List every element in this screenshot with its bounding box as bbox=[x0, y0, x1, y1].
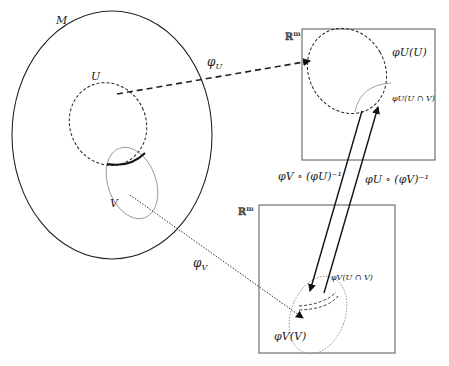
image-phi-u-u-label: φU(U) bbox=[392, 46, 427, 59]
chart-phi-v-label: φV bbox=[193, 256, 208, 272]
chart-phi-u-label: φU bbox=[207, 55, 222, 71]
intersection-u-v-curve bbox=[107, 153, 145, 165]
open-set-v bbox=[97, 140, 167, 226]
image-phi-v-intersection-curve-2 bbox=[299, 296, 338, 310]
rm-space-bottom-label: ℝm bbox=[238, 204, 254, 217]
image-phi-v-v-label: φV(V) bbox=[274, 330, 306, 343]
manifold-diagram: M U V φU φV ℝm φU(U) φU(U ∩ V) ℝm φV(V) … bbox=[0, 0, 449, 366]
open-set-u-label: U bbox=[91, 70, 101, 83]
image-phi-u-intersection-label: φU(U ∩ V) bbox=[392, 94, 435, 103]
open-set-v-label: V bbox=[110, 197, 119, 210]
manifold-m-label: M bbox=[55, 14, 68, 27]
transition-vu-arrow bbox=[310, 111, 362, 291]
image-phi-v-intersection-curve-1 bbox=[299, 292, 336, 306]
image-phi-v-intersection-label: φV(U ∩ V) bbox=[331, 273, 373, 282]
image-phi-v-v bbox=[279, 268, 357, 362]
chart-phi-v-arrow bbox=[130, 195, 303, 318]
manifold-m-boundary bbox=[12, 11, 212, 259]
transition-vu-label: φV ∘ (φU)⁻¹ bbox=[278, 170, 342, 183]
image-phi-u-u bbox=[292, 14, 402, 128]
transition-uv-label: φU ∘ (φV)⁻¹ bbox=[365, 173, 429, 186]
transition-uv-arrow bbox=[324, 107, 378, 293]
rm-space-top-label: ℝm bbox=[285, 29, 301, 42]
